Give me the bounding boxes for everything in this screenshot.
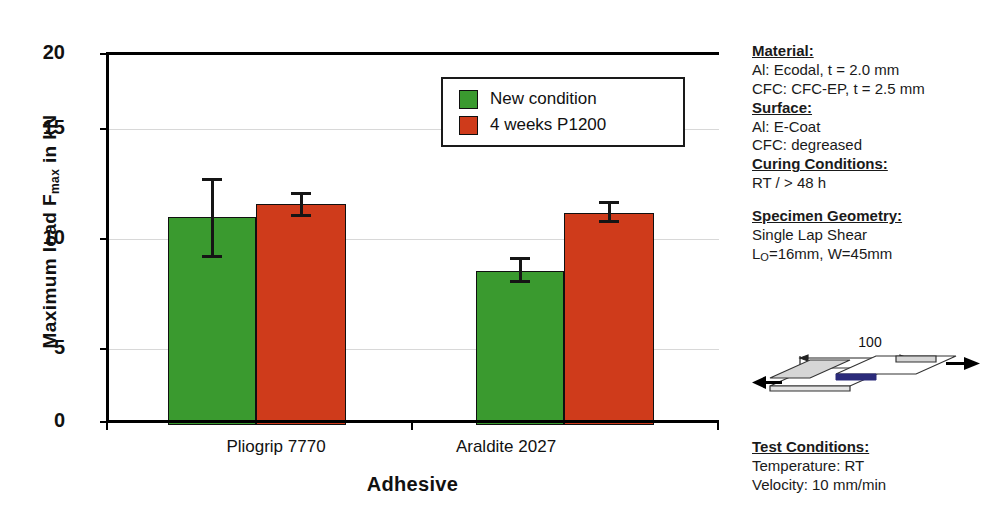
material-line-cfc: CFC: CFC-EP, t = 2.5 mm xyxy=(752,80,992,99)
specimen-diagram: 100 xyxy=(748,334,992,406)
geometry-line-type: Single Lap Shear xyxy=(752,226,992,245)
x-axis-title: Adhesive xyxy=(106,473,719,496)
ytick-mark-10 xyxy=(100,238,109,240)
legend-label-4-weeks-p1200: 4 weeks P1200 xyxy=(490,115,606,135)
plate-lower-edge xyxy=(770,386,850,391)
test-conditions-velocity: Velocity: 10 mm/min xyxy=(752,476,992,495)
y-axis-title-main: Maximum load F xyxy=(39,194,60,348)
legend: New condition 4 weeks P1200 xyxy=(441,77,685,147)
legend-item-4-weeks-p1200: 4 weeks P1200 xyxy=(443,112,683,138)
test-conditions-block: Test Conditions: Temperature: RT Velocit… xyxy=(752,438,992,495)
surface-heading: Surface: xyxy=(752,99,992,118)
ytick-mark-5 xyxy=(100,348,109,350)
ytick-label-0: 0 xyxy=(19,410,65,430)
surface-line-cfc: CFC: degreased xyxy=(752,136,992,155)
legend-label-new-condition: New condition xyxy=(490,89,597,109)
test-conditions-temperature: Temperature: RT xyxy=(752,457,992,476)
bar-araldite-4-weeks-p1200 xyxy=(564,213,654,425)
geometry-line-dims: LO=16mm, W=45mm xyxy=(752,245,992,265)
legend-item-new-condition: New condition xyxy=(443,86,683,112)
curing-line: RT / > 48 h xyxy=(752,174,992,193)
curing-heading: Curing Conditions: xyxy=(752,155,992,174)
xtick-mark-left xyxy=(106,420,108,430)
y-axis-title-subscript: max xyxy=(48,169,62,194)
errorbar-pliogrip-4-weeks-p1200 xyxy=(291,192,311,217)
ytick-label-10: 10 xyxy=(19,227,65,247)
errorbar-araldite-4-weeks-p1200 xyxy=(599,201,619,223)
xtick-label-pliogrip: Pliogrip 7770 xyxy=(176,437,376,457)
bar-chart: Maximum load Fmax in kN 20 15 10 5 0 xyxy=(0,0,740,510)
bar-pliogrip-4-weeks-p1200 xyxy=(256,204,346,425)
ytick-label-5: 5 xyxy=(19,337,65,357)
ytick-mark-20 xyxy=(100,53,109,55)
info-spacer-1 xyxy=(752,193,992,207)
geometry-heading: Specimen Geometry: xyxy=(752,207,992,226)
xtick-mark-right xyxy=(717,420,719,430)
surface-line-al: Al: E-Coat xyxy=(752,118,992,137)
adhesive-layer xyxy=(836,374,876,380)
load-arrow-right xyxy=(946,357,980,370)
bar-araldite-new-condition xyxy=(476,271,564,425)
ytick-label-15: 15 xyxy=(19,117,65,137)
geometry-dims-sub: O xyxy=(760,251,769,263)
info-panel: Material: Al: Ecodal, t = 2.0 mm CFC: CF… xyxy=(752,42,992,265)
legend-swatch-red-icon xyxy=(459,116,478,135)
specimen-dimension-label: 100 xyxy=(748,334,992,350)
material-heading: Material: xyxy=(752,42,992,61)
errorbar-pliogrip-new-condition xyxy=(202,178,222,258)
test-conditions-heading: Test Conditions: xyxy=(752,438,992,457)
plate-upper-grip xyxy=(896,356,936,362)
errorbar-araldite-new-condition xyxy=(510,257,530,283)
legend-swatch-green-icon xyxy=(459,90,478,109)
geometry-dims-post: =16mm, W=45mm xyxy=(769,245,892,262)
ytick-label-20: 20 xyxy=(19,42,65,62)
material-line-al: Al: Ecodal, t = 2.0 mm xyxy=(752,61,992,80)
xtick-label-araldite: Araldite 2027 xyxy=(386,437,626,457)
ytick-mark-15 xyxy=(100,128,109,130)
xtick-mark-middle xyxy=(411,420,413,430)
